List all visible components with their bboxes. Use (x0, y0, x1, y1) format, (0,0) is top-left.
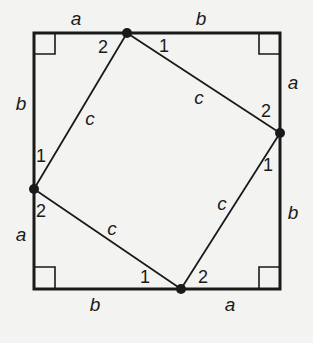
vertex-dot-right (275, 128, 285, 138)
side-label-top-left: a (71, 8, 82, 29)
side-label-right-upper: a (288, 72, 299, 93)
inner-square (34, 33, 280, 289)
vertex-dot-bottom (176, 284, 186, 294)
side-label-bottom-left: b (90, 294, 101, 315)
side-label-left-lower: a (16, 224, 27, 245)
vertex-dot-top (122, 28, 132, 38)
angle-label-top-vertex-left: 2 (98, 37, 108, 57)
hypotenuse-label-bottom-left: c (107, 218, 117, 239)
hypotenuse-label-bottom-right: c (217, 193, 227, 214)
outer-square (34, 33, 280, 289)
angle-label-left-vertex-upper: 1 (36, 146, 46, 166)
angle-label-top-vertex-right: 1 (159, 36, 169, 56)
right-angle-marker-bottom-right (259, 267, 279, 288)
angle-label-right-vertex-upper: 2 (261, 101, 271, 121)
right-angle-marker-top-left (35, 34, 55, 54)
side-label-top-right: b (196, 8, 207, 29)
right-angle-marker-top-right (259, 34, 279, 54)
angle-label-bottom-vertex-left: 1 (140, 267, 150, 287)
vertex-dot-left (29, 184, 39, 194)
side-label-bottom-right: a (225, 294, 236, 315)
angle-label-right-vertex-lower: 1 (263, 155, 273, 175)
side-label-left-upper: b (16, 93, 27, 114)
side-label-right-lower: b (288, 202, 299, 223)
pythagorean-diagram: a b a b a b a b c c c c 2 1 2 1 2 1 2 1 (0, 0, 313, 343)
angle-label-left-vertex-lower: 2 (36, 201, 46, 221)
angle-label-bottom-vertex-right: 2 (198, 267, 208, 287)
right-angle-marker-bottom-left (35, 267, 55, 288)
hypotenuse-label-top-left: c (85, 108, 95, 129)
hypotenuse-label-top-right: c (194, 87, 204, 108)
